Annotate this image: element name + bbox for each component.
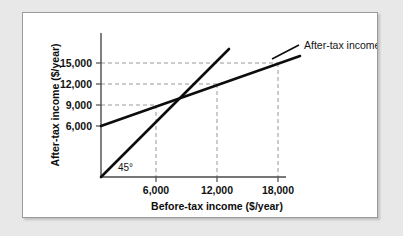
y-tick-label-9000: 9,000 (66, 99, 92, 111)
x-tick-label-18000: 18,000 (262, 184, 294, 196)
x-tick-label-12000: 12,000 (201, 184, 233, 196)
x-tick-label-6000: 6,000 (143, 184, 169, 196)
chart-panel: 15,000 12,000 9,000 6,000 6,000 12,000 1… (22, 12, 378, 218)
y-tick-label-15000: 15,000 (60, 57, 92, 69)
series-line-after-tax-income (101, 56, 300, 126)
series-label-after-tax-income: After-tax income (304, 39, 377, 51)
annotation-45-degree: 45° (118, 162, 133, 173)
y-tick-label-6000: 6,000 (66, 120, 92, 132)
chart-plot-area: 15,000 12,000 9,000 6,000 6,000 12,000 1… (23, 13, 377, 217)
y-tick-label-12000: 12,000 (60, 78, 92, 90)
x-axis-title: Before-tax income ($/year) (151, 200, 283, 212)
figure-root: 15,000 12,000 9,000 6,000 6,000 12,000 1… (0, 0, 403, 236)
y-axis-title: After-tax income ($/year) (49, 43, 61, 166)
series-line-45-degree (101, 49, 229, 177)
